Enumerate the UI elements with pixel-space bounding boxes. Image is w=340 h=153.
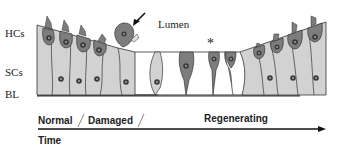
arrow-icon — [133, 13, 145, 26]
regenerating-hair-cell — [179, 52, 194, 95]
stage-divider — [78, 114, 84, 127]
stage-damaged-label: Damaged — [88, 115, 133, 126]
hair-cells-label: HCs — [5, 27, 25, 39]
sensory-epithelium-diagram: HCs SCs BL Lumen * — [0, 0, 340, 153]
extruding-hair-cell — [115, 23, 139, 47]
arrow-head-icon — [318, 126, 326, 132]
hair-cell — [271, 34, 284, 53]
supporting-cells-label: SCs — [5, 66, 23, 78]
hair-cell — [43, 16, 55, 45]
supporting-cell — [150, 52, 163, 95]
basal-lamina-label: BL — [5, 88, 19, 100]
hair-cell — [60, 20, 73, 48]
stage-normal-label: Normal — [38, 115, 73, 126]
hair-cell — [77, 25, 91, 52]
hair-cell — [288, 22, 302, 49]
lumen-label: Lumen — [158, 18, 190, 30]
timeline: Normal Damaged Regenerating Time — [38, 113, 326, 146]
stage-divider — [138, 114, 144, 127]
asterisk-marker: * — [207, 36, 214, 51]
hair-cell — [308, 16, 322, 42]
stage-regenerating-label: Regenerating — [204, 113, 268, 124]
hair-cell — [94, 34, 107, 56]
hair-cell — [254, 43, 265, 59]
time-axis-label: Time — [38, 135, 62, 146]
